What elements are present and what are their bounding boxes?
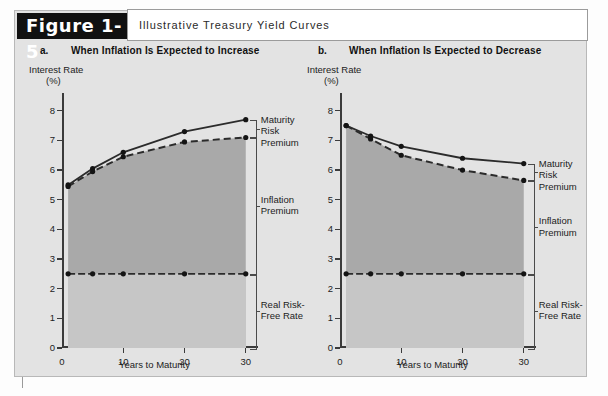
- inflation-premium-label-line: Inflation: [539, 215, 577, 227]
- panel-a-y-axis-title: Interest Rate (%): [29, 64, 83, 86]
- panel-b-x-axis-label: Years to Maturity: [397, 359, 468, 370]
- figure-panel: Figure 1-5 Illustrative Treasury Yield C…: [14, 10, 587, 377]
- inflation-premium-label: InflationPremium: [539, 215, 577, 238]
- inflation-premium-label: InflationPremium: [261, 194, 299, 217]
- real-risk-free-rate-label: Real Risk-Free Rate: [539, 299, 583, 322]
- y-axis-tick-label: 6: [38, 164, 55, 175]
- data-point-nominal-yield: [368, 133, 373, 138]
- figure-number-tag: Figure 1-5: [17, 13, 127, 39]
- panel-b-header: b. When Inflation Is Expected to Decreas…: [301, 45, 583, 59]
- data-point-inflation-plus-real: [399, 153, 404, 158]
- x-axis-tick-label: 0: [329, 356, 351, 367]
- figure-header: Figure 1-5 Illustrative Treasury Yield C…: [15, 11, 588, 41]
- y-axis-tick-label: 5: [38, 194, 55, 205]
- y-axis-tick-label: 8: [38, 105, 55, 116]
- data-point-nominal-yield: [460, 156, 465, 161]
- data-point-real-risk-free-rate: [121, 271, 126, 276]
- maturity-risk-premium-label: MaturityRiskPremium: [261, 114, 299, 149]
- data-point-inflation-plus-real: [121, 154, 126, 159]
- x-axis-tick-label: 30: [513, 356, 535, 367]
- data-point-real-risk-free-rate: [66, 271, 71, 276]
- band-inflation-premium: [68, 137, 246, 273]
- data-point-nominal-yield: [182, 129, 187, 134]
- panel-a-heading: When Inflation Is Expected to Increase: [71, 45, 260, 56]
- panel-b-y-axis-title: Interest Rate (%): [307, 64, 361, 86]
- data-point-real-risk-free-rate: [521, 271, 526, 276]
- maturity-risk-premium-label-line: Maturity: [539, 158, 577, 170]
- x-axis-tick: [245, 348, 246, 353]
- maturity-risk-premium-label-line: Risk: [539, 169, 577, 181]
- panel-b-letter: b.: [318, 45, 327, 56]
- panel-b-plot-area: 0123456780102030: [340, 93, 536, 348]
- maturity-risk-premium-label-line: Risk: [261, 125, 299, 137]
- x-axis-tick: [123, 348, 124, 353]
- maturity-risk-premium-label-line: Premium: [261, 137, 299, 149]
- real-risk-free-rate-bracket-tick: [256, 311, 260, 312]
- panel-b-y-axis-title-line1: Interest Rate: [307, 64, 361, 75]
- chart-panel-a: a. When Inflation Is Expected to Increas…: [23, 45, 305, 375]
- y-axis-tick-label: 6: [316, 164, 333, 175]
- y-axis-tick-label: 1: [38, 312, 55, 323]
- data-point-nominal-yield: [90, 166, 95, 171]
- y-axis-tick-label: 3: [38, 253, 55, 264]
- y-axis-tick-label: 4: [38, 223, 55, 234]
- maturity-risk-premium-label-line: Maturity: [261, 114, 299, 126]
- inflation-premium-bracket-tick: [256, 206, 260, 207]
- x-axis-tick-label: 0: [51, 356, 73, 367]
- real-risk-free-rate-label: Real Risk-Free Rate: [261, 299, 305, 322]
- data-point-inflation-plus-real: [243, 135, 248, 140]
- real-risk-free-rate-label-line: Free Rate: [261, 310, 305, 322]
- y-axis-tick-label: 8: [316, 105, 333, 116]
- y-axis-tick-label: 4: [316, 223, 333, 234]
- data-point-nominal-yield: [399, 144, 404, 149]
- y-axis-tick-label: 0: [38, 342, 55, 353]
- panel-b-y-axis-title-line2: (%): [307, 75, 361, 86]
- data-point-real-risk-free-rate: [344, 271, 349, 276]
- data-point-nominal-yield: [243, 117, 248, 122]
- data-point-real-risk-free-rate: [399, 271, 404, 276]
- y-axis-tick-label: 3: [316, 253, 333, 264]
- maturity-risk-premium-label-line: Premium: [539, 181, 577, 193]
- y-axis-tick-label: 2: [316, 283, 333, 294]
- inflation-premium-label-line: Inflation: [261, 194, 299, 206]
- x-axis-tick: [462, 348, 463, 353]
- x-axis-tick-label: 30: [235, 356, 257, 367]
- data-point-real-risk-free-rate: [182, 271, 187, 276]
- inflation-premium-label-line: Premium: [261, 205, 299, 217]
- y-axis-tick-label: 1: [316, 312, 333, 323]
- real-risk-free-rate-label-line: Real Risk-: [261, 299, 305, 311]
- series-layer: [62, 93, 258, 348]
- panel-b-heading: When Inflation Is Expected to Decrease: [349, 45, 541, 56]
- x-axis-tick: [401, 348, 402, 353]
- y-axis-tick-label: 0: [316, 342, 333, 353]
- y-axis-tick-label: 5: [316, 194, 333, 205]
- real-risk-free-rate-label-line: Real Risk-: [539, 299, 583, 311]
- y-axis-tick-label: 7: [38, 134, 55, 145]
- data-point-nominal-yield: [121, 150, 126, 155]
- data-point-inflation-plus-real: [460, 167, 465, 172]
- figure-title-box: Illustrative Treasury Yield Curves: [127, 9, 588, 41]
- data-point-inflation-plus-real: [521, 178, 526, 183]
- panel-a-letter: a.: [40, 45, 48, 56]
- inflation-premium-label-line: Premium: [539, 227, 577, 239]
- panel-a-header: a. When Inflation Is Expected to Increas…: [23, 45, 305, 59]
- data-point-nominal-yield: [344, 123, 349, 128]
- data-point-real-risk-free-rate: [460, 271, 465, 276]
- data-point-inflation-plus-real: [182, 139, 187, 144]
- maturity-risk-premium-label: MaturityRiskPremium: [539, 158, 577, 193]
- panel-a-y-axis-title-line1: Interest Rate: [29, 64, 83, 75]
- chart-panel-b: b. When Inflation Is Expected to Decreas…: [301, 45, 583, 375]
- data-point-nominal-yield: [521, 161, 526, 166]
- data-point-real-risk-free-rate: [368, 271, 373, 276]
- data-point-real-risk-free-rate: [243, 271, 248, 276]
- x-axis-tick: [184, 348, 185, 353]
- x-axis-tick: [523, 348, 524, 353]
- inflation-premium-bracket-tick: [534, 227, 538, 228]
- y-axis-tick-label: 7: [316, 134, 333, 145]
- data-point-real-risk-free-rate: [90, 271, 95, 276]
- y-axis-tick-label: 2: [38, 283, 55, 294]
- panel-a-x-axis-label: Years to Maturity: [119, 359, 190, 370]
- real-risk-free-rate-bracket-tick: [534, 311, 538, 312]
- band-inflation-premium: [346, 126, 524, 274]
- series-layer: [340, 93, 536, 348]
